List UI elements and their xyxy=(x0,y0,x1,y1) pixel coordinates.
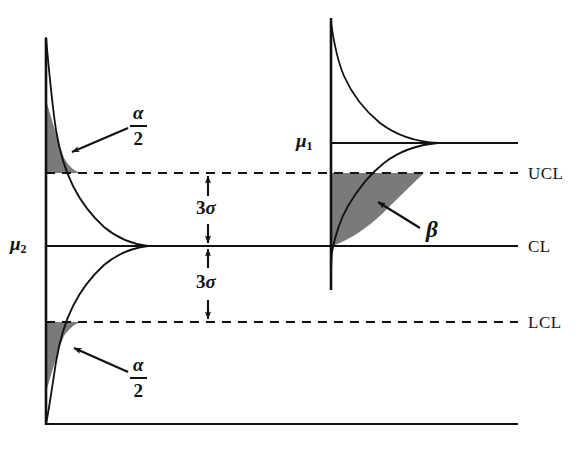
alpha-upper-fraction-bar xyxy=(130,125,147,127)
lcl-label: LCL xyxy=(528,314,562,331)
alpha-lower-label: α 2 xyxy=(130,355,147,401)
beta-leader-arrow xyxy=(378,202,420,228)
mu1-label: μ1 xyxy=(296,131,313,150)
alpha-upper-denominator: 2 xyxy=(130,128,147,149)
beta-label: β xyxy=(426,218,438,241)
alpha-upper-leader-arrow xyxy=(72,128,128,152)
alpha-upper-numerator: α xyxy=(130,103,147,124)
beta-shaded-region xyxy=(331,173,424,246)
control-chart-figure: μ2 μ1 α 2 α 2 β 3σ 3σ UCL CL LCL xyxy=(0,0,588,450)
mu2-label: μ2 xyxy=(10,234,27,253)
sigma-upper-label: 3σ xyxy=(196,198,216,217)
figure-canvas xyxy=(0,0,588,450)
alpha-lower-numerator: α xyxy=(130,355,147,376)
cl-label: CL xyxy=(528,238,551,255)
sigma-lower-label: 3σ xyxy=(196,272,216,291)
alpha-lower-denominator: 2 xyxy=(130,380,147,401)
shifted-distribution-curve xyxy=(331,22,438,282)
ucl-label: UCL xyxy=(528,165,564,182)
alpha-lower-fraction-bar xyxy=(130,377,147,379)
alpha-lower-shaded-region xyxy=(46,322,82,392)
alpha-lower-leader-arrow xyxy=(74,348,128,372)
alpha-upper-label: α 2 xyxy=(130,103,147,149)
